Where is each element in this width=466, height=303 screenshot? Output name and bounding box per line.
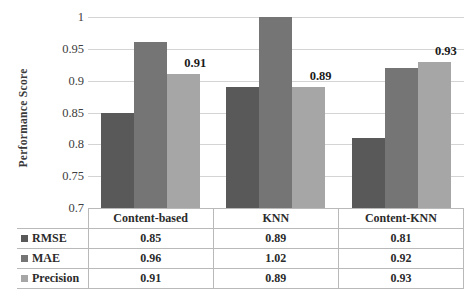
y-axis-tick-label: 0.85 <box>40 107 84 120</box>
bar-rmse-knn <box>226 87 259 208</box>
table-row: MAE0.961.020.92 <box>17 249 464 269</box>
bar-groups <box>88 17 464 208</box>
table-cell: 0.89 <box>213 269 338 289</box>
bar-chart-figure: Performance Score 0.70.750.80.850.90.951… <box>0 0 466 303</box>
y-axis-tick-label: 0.8 <box>40 138 84 151</box>
table-row: RMSE0.850.890.81 <box>17 229 464 249</box>
data-table: Content-basedKNNContent-KNNRMSE0.850.890… <box>17 208 464 289</box>
bar-precision-content-based <box>167 74 200 208</box>
y-axis-tick-label: 0.95 <box>40 43 84 56</box>
bar-rmse-content-knn <box>352 138 385 208</box>
table-corner-cell <box>17 209 88 229</box>
bar-value-label: 0.91 <box>184 57 206 70</box>
legend-swatch-icon <box>21 255 28 262</box>
bar-precision-content-knn <box>418 62 451 208</box>
bar-group <box>213 17 338 208</box>
bar-mae-content-knn <box>385 68 418 208</box>
bar-value-label: 0.93 <box>435 45 457 58</box>
table-cell: 0.91 <box>88 269 213 289</box>
legend-item-mae[interactable]: MAE <box>17 249 88 269</box>
y-axis-tick-label: 1 <box>40 11 84 24</box>
table-row: Precision0.910.890.93 <box>17 269 464 289</box>
legend-item-rmse[interactable]: RMSE <box>17 229 88 249</box>
plot-area: 0.910.890.93 <box>88 17 464 208</box>
table-column-header: KNN <box>213 209 338 229</box>
table-cell: 0.81 <box>338 229 463 249</box>
table-column-header: Content-KNN <box>338 209 463 229</box>
bar-group <box>88 17 213 208</box>
bar-rmse-content-based <box>101 113 134 209</box>
legend-swatch-icon <box>21 275 28 282</box>
table-column-header: Content-based <box>88 209 213 229</box>
legend-item-precision[interactable]: Precision <box>17 269 88 289</box>
bar-precision-knn <box>292 87 325 208</box>
table-cell: 0.93 <box>338 269 463 289</box>
table-cell: 0.85 <box>88 229 213 249</box>
bar-mae-knn <box>259 17 292 208</box>
bar-value-label: 0.89 <box>310 70 332 83</box>
y-axis-title: Performance Score <box>14 28 32 208</box>
table-cell: 0.92 <box>338 249 463 269</box>
legend-label: RMSE <box>32 231 67 245</box>
table-cell: 0.89 <box>213 229 338 249</box>
y-axis-tick-label: 0.75 <box>40 170 84 183</box>
table-header-row: Content-basedKNNContent-KNN <box>17 209 464 229</box>
table-cell: 0.96 <box>88 249 213 269</box>
legend-label: Precision <box>32 271 79 285</box>
legend-swatch-icon <box>21 235 28 242</box>
legend-label: MAE <box>32 251 60 265</box>
y-axis-tick-label: 0.9 <box>40 75 84 88</box>
bar-mae-content-based <box>134 42 167 208</box>
table-cell: 1.02 <box>213 249 338 269</box>
